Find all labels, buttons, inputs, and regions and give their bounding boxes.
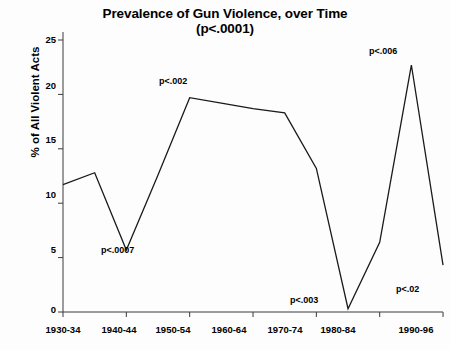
p-value-annotation: p<.002 — [159, 76, 187, 86]
chart-container: Prevalence of Gun Violence, over Time (p… — [0, 0, 450, 350]
x-tick-label: 1990-96 — [386, 325, 446, 335]
y-tick-label: 5 — [30, 245, 56, 255]
x-tick-label: 1960-64 — [199, 325, 259, 335]
p-value-annotation: p<.02 — [396, 284, 419, 294]
x-tick-label: 1930-34 — [33, 325, 93, 335]
x-tick-label: 1940-44 — [89, 325, 149, 335]
data-series-line — [63, 65, 443, 309]
x-tick-label: 1980-84 — [308, 325, 368, 335]
y-tick-label: 10 — [30, 190, 56, 200]
x-tick-label: 1950-54 — [143, 325, 203, 335]
y-tick-label: 20 — [30, 81, 56, 91]
tickmark-layer — [58, 40, 443, 317]
y-tick-label: 25 — [30, 35, 56, 45]
p-value-annotation: p<.003 — [290, 295, 318, 305]
p-value-annotation: p<.0007 — [101, 245, 134, 255]
y-tick-label: 0 — [30, 305, 56, 315]
p-value-annotation: p<.006 — [369, 46, 397, 56]
y-tick-label: 15 — [30, 135, 56, 145]
x-tick-label: 1970-74 — [255, 325, 315, 335]
axis-layer — [63, 32, 443, 312]
